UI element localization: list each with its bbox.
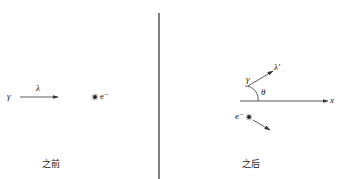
scattered-photon-arrow (248, 71, 273, 86)
electron-dot-after (247, 115, 251, 119)
after-caption: 之后 (242, 160, 260, 169)
angle-arc (245, 86, 258, 101)
recoil-electron-arrow (253, 120, 270, 130)
scattered-wavelength-label: λ′ (274, 63, 280, 72)
diagram-canvas (0, 0, 342, 179)
x-axis-label: x (330, 96, 334, 105)
electron-label-before: e⁻ (100, 92, 109, 101)
angle-label: θ (261, 88, 265, 97)
incident-wavelength-label: λ (36, 84, 40, 93)
electron-label-after: e⁻ (235, 112, 244, 121)
incident-photon-label: γ (7, 92, 11, 101)
before-caption: 之前 (42, 160, 60, 169)
electron-dot-before (93, 95, 97, 99)
scattered-photon-label: γ (246, 75, 250, 84)
